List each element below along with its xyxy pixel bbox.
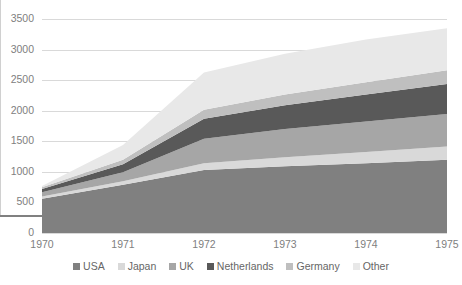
legend-item-usa[interactable]: USA [73,261,105,272]
y-tick-label: 2500 [0,74,34,85]
y-tick-label: 3500 [0,13,34,24]
y-tick-label: 1500 [0,135,34,146]
x-tick-label: 1970 [12,239,72,250]
y-tick-label: 0 [0,227,34,238]
legend-item-uk[interactable]: UK [169,261,194,272]
legend-swatch-icon [286,263,293,270]
legend-label: Japan [128,261,157,272]
legend-swatch-icon [169,263,176,270]
legend-label: USA [83,261,105,272]
y-tick-label: 1000 [0,166,34,177]
x-tick-label: 1974 [336,239,396,250]
legend-item-netherlands[interactable]: Netherlands [207,261,274,272]
chart-legend: USAJapanUKNetherlandsGermanyOther [0,258,462,274]
legend-item-japan[interactable]: Japan [118,261,157,272]
y-tick-label: 500 [0,196,34,207]
gridline [42,233,447,234]
legend-label: Netherlands [217,261,274,272]
stacked-area-series [42,19,447,233]
y-tick-label: 3000 [0,44,34,55]
legend-swatch-icon [73,263,80,270]
x-tick-label: 1972 [174,239,234,250]
stacked-area-chart: 0500100015002000250030003500 19701971197… [0,0,462,285]
y-tick-label: 2000 [0,105,34,116]
x-tick-label: 1971 [93,239,153,250]
legend-label: Germany [296,261,339,272]
legend-label: Other [363,261,389,272]
x-tick-label: 1973 [255,239,315,250]
x-tick-label: 1975 [417,239,462,250]
legend-swatch-icon [118,263,125,270]
legend-swatch-icon [353,263,360,270]
plot-area [42,19,447,233]
legend-swatch-icon [207,263,214,270]
legend-label: UK [179,261,194,272]
legend-item-other[interactable]: Other [353,261,389,272]
legend-item-germany[interactable]: Germany [286,261,339,272]
